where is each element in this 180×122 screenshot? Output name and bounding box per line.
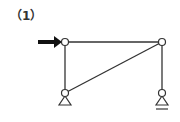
member-diagonal: [65, 42, 162, 93]
node-top-left: [62, 39, 69, 46]
load-arrow-icon: [38, 36, 62, 48]
roller-support-icon: [156, 96, 168, 109]
node-bottom-right: [159, 90, 166, 97]
truss-diagram: [0, 0, 180, 122]
truss-members: [65, 42, 162, 93]
node-top-right: [159, 39, 166, 46]
node-bottom-left: [62, 90, 69, 97]
pin-support-icon: [59, 96, 71, 105]
